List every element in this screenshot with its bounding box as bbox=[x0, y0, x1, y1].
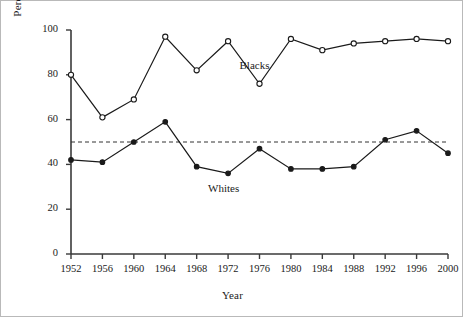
data-lines bbox=[71, 37, 448, 174]
chart-figure: Percentage Voting Democrat Year 02040608… bbox=[0, 0, 463, 317]
y-tick-100: 100 bbox=[28, 23, 58, 34]
y-axis-title: Percentage Voting Democrat bbox=[11, 0, 23, 51]
point-whites-2000 bbox=[446, 151, 451, 156]
y-tick-80: 80 bbox=[28, 68, 58, 79]
point-whites-1996 bbox=[414, 129, 419, 134]
point-blacks-1976 bbox=[257, 81, 262, 86]
point-whites-1956 bbox=[100, 160, 105, 165]
point-blacks-1956 bbox=[100, 115, 105, 120]
point-whites-1988 bbox=[351, 164, 356, 169]
point-whites-1964 bbox=[163, 120, 168, 125]
point-blacks-2000 bbox=[445, 39, 450, 44]
point-blacks-1980 bbox=[288, 36, 293, 41]
point-blacks-1984 bbox=[320, 48, 325, 53]
point-whites-1980 bbox=[289, 167, 294, 172]
x-tick-2000: 2000 bbox=[425, 263, 463, 274]
point-whites-1992 bbox=[383, 137, 388, 142]
series-label-whites: Whites bbox=[208, 182, 239, 194]
point-whites-1972 bbox=[226, 171, 231, 176]
y-tick-60: 60 bbox=[28, 113, 58, 124]
point-whites-1984 bbox=[320, 167, 325, 172]
point-blacks-1964 bbox=[163, 34, 168, 39]
series-label-blacks: Blacks bbox=[240, 59, 270, 71]
point-whites-1976 bbox=[257, 146, 262, 151]
point-blacks-1952 bbox=[68, 72, 73, 77]
point-blacks-1996 bbox=[414, 36, 419, 41]
point-blacks-1960 bbox=[131, 97, 136, 102]
y-tick-20: 20 bbox=[28, 202, 58, 213]
point-whites-1960 bbox=[132, 140, 137, 145]
y-tick-0: 0 bbox=[28, 247, 58, 258]
data-markers bbox=[68, 34, 450, 176]
point-whites-1968 bbox=[194, 164, 199, 169]
point-whites-1952 bbox=[69, 158, 74, 163]
point-blacks-1992 bbox=[383, 39, 388, 44]
point-blacks-1968 bbox=[194, 68, 199, 73]
x-axis-title: Year bbox=[1, 289, 463, 301]
y-tick-40: 40 bbox=[28, 157, 58, 168]
point-blacks-1988 bbox=[351, 41, 356, 46]
series-line-blacks bbox=[71, 37, 448, 118]
point-blacks-1972 bbox=[225, 39, 230, 44]
